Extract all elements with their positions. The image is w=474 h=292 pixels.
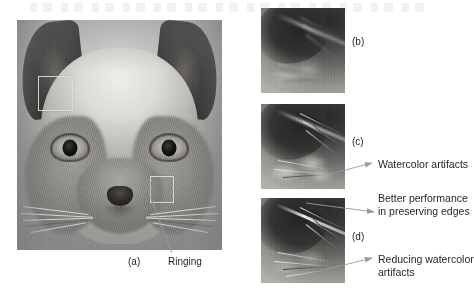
arrow-reducing-watercolor — [324, 258, 372, 270]
panel-label-a: (a) — [128, 256, 140, 268]
figure-container: (a) Ringing (b) (c) (d) Watercolor artif… — [0, 0, 474, 292]
arrow-better-performance — [306, 203, 374, 212]
annotation-watercolor-artifacts: Watercolor artifacts — [378, 158, 468, 171]
annotation-ringing: Ringing — [168, 256, 202, 268]
annotation-better-performance: Better performance in preserving edges — [378, 192, 470, 218]
panel-label-d: (d) — [352, 231, 364, 243]
leader-ringing — [150, 181, 172, 253]
arrow-watercolor-artifacts — [330, 163, 372, 174]
annotation-reducing-watercolor: Reducing watercolor artifacts — [378, 253, 474, 279]
panel-label-b: (b) — [352, 36, 364, 48]
leader-lines — [0, 0, 474, 292]
panel-label-c: (c) — [352, 136, 364, 148]
